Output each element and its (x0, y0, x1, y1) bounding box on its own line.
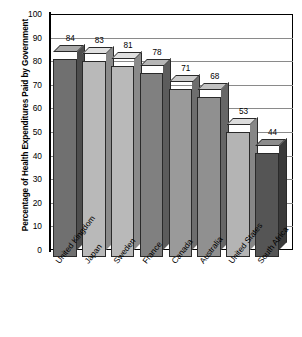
bar-front-face (140, 73, 164, 257)
y-axis-tick-labels: 1009080706050403020100 (18, 0, 42, 250)
bar[interactable] (111, 59, 135, 257)
y-axis-tick-label: 90 (18, 33, 42, 42)
bar-value-label: 81 (113, 41, 144, 50)
bar[interactable] (197, 90, 221, 257)
y-axis-tick-label: 60 (18, 104, 42, 113)
bar[interactable] (169, 82, 193, 257)
y-axis-tick-label: 80 (18, 57, 42, 66)
y-axis-tick-label: 100 (18, 10, 42, 19)
plot-area: 8483817871685344 (49, 14, 293, 250)
bar[interactable] (140, 66, 164, 257)
bar-front-face (169, 89, 193, 257)
bar-value-label: 83 (84, 36, 115, 45)
y-axis-tick-label: 40 (18, 151, 42, 160)
y-axis-tick-label: 20 (18, 198, 42, 207)
bar-value-label: 84 (55, 34, 86, 43)
y-axis-line (49, 12, 51, 252)
bar[interactable] (53, 52, 77, 257)
bar-value-label: 44 (257, 128, 288, 137)
bar-front-face (111, 66, 135, 257)
bar-front-face (197, 97, 221, 257)
bar-value-label: 53 (228, 107, 259, 116)
bar-value-label: 71 (171, 64, 202, 73)
y-axis-tick-label: 30 (18, 175, 42, 184)
y-axis-tick-label: 10 (18, 222, 42, 231)
y-axis-tick-label: 0 (18, 246, 42, 255)
bars-layer: 8483817871685344 (49, 14, 293, 250)
bar-chart: Percentage of Health Expenditures Paid b… (0, 0, 302, 337)
y-axis-tick-label: 70 (18, 80, 42, 89)
y-axis-tick-label: 50 (18, 128, 42, 137)
bar-front-face (53, 59, 77, 257)
bar-value-label: 78 (142, 48, 173, 57)
bar-value-label: 68 (199, 72, 230, 81)
